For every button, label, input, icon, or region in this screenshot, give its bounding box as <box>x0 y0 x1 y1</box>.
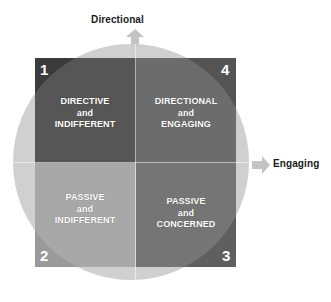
quadrant-2-label: PASSIVE and INDIFFERENT <box>35 192 135 227</box>
arrow-up-icon <box>125 29 145 47</box>
quadrant-3-line3: CONCERNED <box>136 219 236 231</box>
quadrant-3-label: PASSIVE and CONCERNED <box>136 196 236 231</box>
vertical-axis-label: Directional <box>0 14 331 25</box>
quadrant-1-line2: and <box>35 108 135 120</box>
quadrant-1-line3: INDIFFERENT <box>35 119 135 131</box>
arrow-right-icon <box>252 155 270 175</box>
quadrant-2-line1: PASSIVE <box>35 192 135 204</box>
quadrant-3-line2: and <box>136 208 236 220</box>
quadrant-4-line3: ENGAGING <box>136 119 236 131</box>
quadrant-number-1: 1 <box>40 62 48 77</box>
quadrant-1-line1: DIRECTIVE <box>35 96 135 108</box>
quadrant-number-3: 3 <box>222 248 230 263</box>
quadrant-2-line2: and <box>35 204 135 216</box>
matrix-square <box>35 58 236 267</box>
horizontal-axis-label: Engaging <box>273 158 319 169</box>
quadrant-1-label: DIRECTIVE and INDIFFERENT <box>35 96 135 131</box>
quadrant-4-line1: DIRECTIONAL <box>136 96 236 108</box>
quadrant-3-line1: PASSIVE <box>136 196 236 208</box>
quadrant-number-2: 2 <box>40 248 48 263</box>
quadrant-4-label: DIRECTIONAL and ENGAGING <box>136 96 236 131</box>
quadrant-2-line3: INDIFFERENT <box>35 215 135 227</box>
quadrant-number-4: 4 <box>221 62 229 77</box>
quadrant-diagram: Directional Engaging DIRECTIVE and INDIF… <box>0 0 331 302</box>
quadrant-4-line2: and <box>136 108 236 120</box>
